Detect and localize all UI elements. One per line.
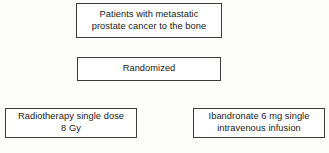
flowchart-node-arm-radiotherapy: Radiotherapy single dose 8 Gy <box>5 108 137 138</box>
node-text-line: intravenous infusion <box>217 123 301 135</box>
node-text-line: Ibandronate 6 mg single <box>209 111 310 123</box>
node-text-line: 8 Gy <box>61 123 81 135</box>
flowchart-diagram: Patients with metastatic prostate cancer… <box>0 0 329 153</box>
node-text-line: Radiotherapy single dose <box>18 111 124 123</box>
flowchart-node-randomized: Randomized <box>77 57 221 81</box>
flowchart-node-study-population: Patients with metastatic prostate cancer… <box>76 3 222 38</box>
node-text-line: Patients with metastatic <box>100 9 199 21</box>
node-text-line: Randomized <box>123 63 176 75</box>
flowchart-node-arm-ibandronate: Ibandronate 6 mg single intravenous infu… <box>193 108 325 138</box>
node-text-line: prostate cancer to the bone <box>92 21 207 33</box>
